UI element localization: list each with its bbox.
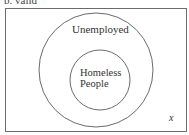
inner-set-label-line1: Homeless	[80, 67, 121, 78]
outer-set-label: Unemployed	[72, 23, 129, 35]
venn-diagram: Unemployed Homeless People x	[0, 0, 189, 135]
universe-label: x	[168, 112, 174, 123]
inner-set-label-line2: People	[80, 78, 109, 89]
